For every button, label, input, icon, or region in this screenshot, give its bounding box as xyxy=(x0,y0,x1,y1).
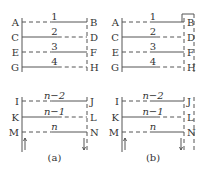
rung-number: 2 xyxy=(51,26,57,37)
rung-number: 2 xyxy=(150,26,156,37)
panel-caption: (b) xyxy=(146,152,160,163)
rung-number: 3 xyxy=(51,41,57,52)
node-label-right: J xyxy=(89,96,94,107)
node-label-right: B xyxy=(90,17,97,28)
node-label-left: M xyxy=(9,127,19,138)
node-label-right: D xyxy=(90,32,98,43)
node-label-left: I xyxy=(15,96,19,107)
node-label-right: L xyxy=(187,112,194,123)
node-label-right: L xyxy=(90,112,97,123)
node-label-right: F xyxy=(187,47,194,58)
node-label-left: G xyxy=(111,62,119,73)
ladder-diagram: AB1CD2EF3GH4IJn−2KLn−1MNn(a)AB1CD2EF3GH4… xyxy=(0,0,205,171)
node-label-left: M xyxy=(109,127,119,138)
node-label-left: I xyxy=(115,96,119,107)
rung-number: 4 xyxy=(150,56,156,67)
rung-number: 3 xyxy=(150,41,156,52)
node-label-right: H xyxy=(187,62,196,73)
rung-number: n−1 xyxy=(142,106,163,117)
node-label-left: E xyxy=(12,47,19,58)
rung-number: n−1 xyxy=(44,106,65,117)
node-label-right: F xyxy=(90,47,97,58)
node-label-left: C xyxy=(11,32,19,43)
node-label-right: H xyxy=(90,62,99,73)
node-label-left: G xyxy=(11,62,19,73)
node-label-left: C xyxy=(111,32,119,43)
rung-number: n xyxy=(150,121,156,132)
rung-number: n−2 xyxy=(142,90,163,101)
node-label-right: N xyxy=(90,127,99,138)
node-label-right: B xyxy=(187,17,194,28)
node-label-left: A xyxy=(11,17,20,28)
node-label-left: K xyxy=(12,112,20,123)
rung-number: 4 xyxy=(51,56,57,67)
rung-number: n−2 xyxy=(44,90,65,101)
node-label-right: N xyxy=(187,127,196,138)
diagram-canvas: AB1CD2EF3GH4IJn−2KLn−1MNn(a)AB1CD2EF3GH4… xyxy=(0,0,205,171)
node-label-left: A xyxy=(111,17,120,28)
panel-caption: (a) xyxy=(48,152,62,163)
node-label-left: K xyxy=(112,112,120,123)
node-label-left: E xyxy=(112,47,119,58)
rung-number: n xyxy=(51,121,57,132)
rung-number: 1 xyxy=(150,11,156,22)
rung-number: 1 xyxy=(51,11,57,22)
node-label-right: J xyxy=(186,96,191,107)
